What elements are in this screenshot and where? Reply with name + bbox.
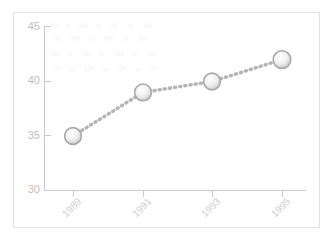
x-axis-ticks (74, 191, 283, 197)
data-point-marker[interactable] (65, 128, 82, 145)
y-tick-label: 45 (28, 20, 40, 32)
y-axis-tick-labels: 45 40 35 30 (28, 20, 40, 195)
series-markers (65, 51, 291, 145)
data-point-marker[interactable] (135, 84, 152, 101)
x-axis-tick-labels: 1989 1991 1993 1995 (60, 195, 293, 219)
y-tick-label: 40 (28, 74, 40, 86)
data-point-marker[interactable] (273, 51, 291, 69)
y-tick-label: 35 (28, 129, 40, 141)
line-chart-plot: 45 40 35 30 1989 1991 1993 1995 (0, 0, 335, 240)
x-tick-label: 1993 (199, 195, 223, 219)
y-tick-label: 30 (28, 183, 40, 195)
chart-container: 45 40 35 30 1989 1991 1993 1995 (0, 0, 335, 240)
x-tick-label: 1989 (60, 195, 84, 219)
series-line-1 (73, 60, 282, 136)
y-axis-ticks (45, 27, 51, 191)
data-point-marker[interactable] (204, 73, 221, 90)
x-tick-label: 1995 (269, 195, 293, 219)
x-tick-label: 1991 (130, 195, 154, 219)
